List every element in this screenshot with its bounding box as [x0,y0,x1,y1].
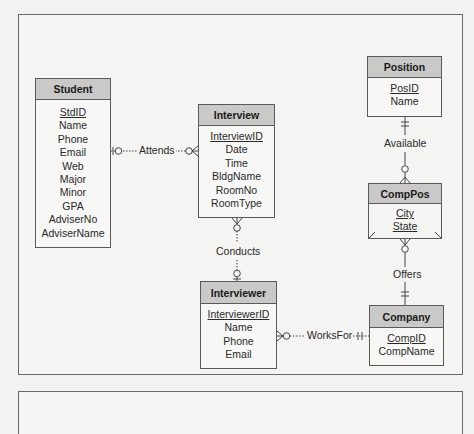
attribute: CompName [370,345,443,358]
attribute: BldgName [199,170,274,183]
attribute: Major [36,173,110,186]
attribute-list: StdID Name Phone Email Web Major Minor G… [36,100,110,240]
attribute-list: CompID CompName [370,328,443,359]
attribute: Name [36,119,110,132]
relationship-label-attends: Attends [138,144,176,156]
attribute: GPA [36,200,110,213]
next-figure-frame [18,391,463,434]
entity-interview[interactable]: Interview InterviewID Date Time BldgName… [198,104,275,218]
entity-student[interactable]: Student StdID Name Phone Email Web Major… [35,78,111,248]
entity-header: Interview [199,105,274,126]
entity-header: Student [36,79,110,100]
attribute: AdviserName [36,227,110,240]
attribute-pk: CompID [370,332,443,345]
relationship-label-worksfor: WorksFor [306,329,353,341]
relationship-label-conducts: Conducts [215,245,261,257]
attribute-list: PosID Name [368,78,441,109]
entity-company[interactable]: Company CompID CompName [369,305,444,366]
attribute: RoomNo [199,184,274,197]
attribute-list: City State [369,204,441,234]
attribute-pk: InterviewID [199,130,274,143]
entity-header: Company [370,306,443,328]
attribute: Name [201,321,276,334]
attribute: Phone [36,133,110,146]
entity-header: Interviewer [201,282,276,304]
entity-header: Position [368,57,441,78]
attribute: Phone [201,335,276,348]
attribute: Email [36,146,110,159]
entity-position[interactable]: Position PosID Name [367,56,442,117]
attribute-list: InterviewerID Name Phone Email [201,304,276,362]
attribute: Email [201,348,276,361]
attribute-pk: City [369,207,441,220]
relationship-label-offers: Offers [392,268,422,280]
attribute-list: InterviewID Date Time BldgName RoomNo Ro… [199,126,274,210]
attribute-pk: State [369,220,441,233]
attribute: Minor [36,186,110,199]
attribute: Date [199,143,274,156]
attribute: RoomType [199,197,274,210]
attribute: Web [36,160,110,173]
attribute: AdviserNo [36,213,110,226]
attribute: Time [199,157,274,170]
page: Student StdID Name Phone Email Web Major… [0,0,474,434]
entity-header: CompPos [369,184,441,204]
attribute-pk: StdID [36,106,110,119]
entity-comppos[interactable]: CompPos City State [368,183,442,239]
entity-interviewer[interactable]: Interviewer InterviewerID Name Phone Ema… [200,281,277,369]
relationship-label-available: Available [383,137,427,149]
attribute: Name [368,95,441,108]
attribute-pk: InterviewerID [201,308,276,321]
attribute-pk: PosID [368,82,441,95]
